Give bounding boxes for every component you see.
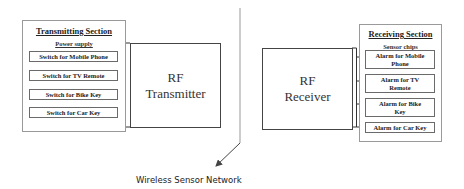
switch-car-key: Switch for Car Key: [29, 107, 118, 118]
switch-tv-remote: Switch for TV Remote: [29, 70, 118, 81]
switch-bike-key: Switch for Bike Key: [29, 89, 118, 100]
switch-mobile-phone: Switch for Mobile Phone: [29, 51, 118, 62]
network-pointer-arrow: [216, 143, 240, 166]
power-supply-label: Power supply: [23, 40, 125, 47]
rf-transmitter-box: RF Transmitter: [130, 43, 221, 128]
alarm-tv-remote: Alarm for TV Remote: [365, 74, 435, 93]
wireless-sensor-network-label: Wireless Sensor Network: [136, 175, 242, 185]
alarm-bike-key: Alarm for Bike Key: [365, 98, 435, 117]
rf-transmitter-line1: RF: [168, 70, 184, 86]
transmitting-section-title: Transmitting Section: [23, 26, 125, 36]
rf-receiver-line1: RF: [300, 73, 316, 89]
rf-receiver-line2: Receiver: [284, 89, 330, 105]
alarm-car-key: Alarm for Car Key: [365, 122, 435, 133]
receiving-section-title: Receiving Section: [360, 29, 441, 39]
alarm-mobile-phone: Alarm for Mobile Phone: [365, 50, 435, 69]
sensor-chips-label: Sensor chips: [360, 43, 441, 50]
rf-transmitter-line2: Transmitter: [145, 86, 205, 102]
rf-receiver-box: RF Receiver: [262, 48, 353, 130]
